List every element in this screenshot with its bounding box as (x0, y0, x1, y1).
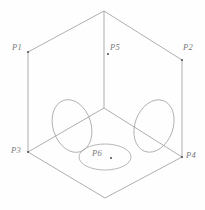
bottom-face-ellipse (79, 144, 131, 170)
vertex-label-p5: P5 (110, 42, 120, 52)
vertex-point-p6 (110, 157, 112, 159)
vertex-label-p3: P3 (11, 145, 21, 155)
cube-wireframe-svg (0, 0, 205, 210)
ellipses-group (46, 94, 182, 170)
left-face-ellipse (46, 94, 99, 157)
vertex-label-p4: P4 (186, 150, 196, 160)
edge-right-lower-to-center (104, 108, 182, 157)
diagram-canvas: P1 P2 P3 P4 P5 P6 (0, 0, 205, 210)
vertex-point-p1 (27, 51, 29, 53)
vertex-point-p2 (181, 59, 183, 61)
right-face-ellipse (127, 94, 181, 158)
vertex-point-p4 (181, 156, 183, 158)
vertex-label-p2: P2 (183, 42, 193, 52)
vertex-point-p5 (107, 53, 109, 55)
vertex-label-p6: P6 (92, 148, 102, 158)
cube-internal-edges-group (28, 11, 182, 157)
vertex-point-p3 (27, 151, 29, 153)
vertex-label-p1: P1 (12, 42, 22, 52)
